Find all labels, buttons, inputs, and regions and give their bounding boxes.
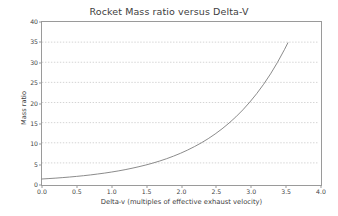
x-tick-label: 2.0 xyxy=(177,189,187,195)
y-tick-label: 5 xyxy=(34,162,38,168)
y-tick-mark xyxy=(39,42,42,43)
y-tick-mark xyxy=(39,22,42,23)
y-tick-label: 40 xyxy=(30,19,38,25)
x-tick-mark xyxy=(216,185,217,188)
y-tick-label: 15 xyxy=(30,121,38,127)
x-tick-label: 4.0 xyxy=(316,189,326,195)
y-tick-label: 25 xyxy=(30,80,38,86)
y-tick-label: 10 xyxy=(30,141,38,147)
x-tick-mark xyxy=(76,185,77,188)
x-tick-mark xyxy=(111,185,112,188)
y-tick-mark xyxy=(39,83,42,84)
y-tick-mark xyxy=(39,144,42,145)
y-tick-label: 30 xyxy=(30,60,38,66)
x-tick-label: 0.0 xyxy=(37,189,47,195)
y-tick-mark xyxy=(39,164,42,165)
x-axis-title: Delta-v (multiples of effective exhaust … xyxy=(41,198,322,206)
y-tick-label: 20 xyxy=(30,100,38,106)
x-tick-mark xyxy=(42,185,43,188)
x-tick-label: 2.5 xyxy=(211,189,221,195)
x-tick-mark xyxy=(181,185,182,188)
y-tick-mark xyxy=(39,62,42,63)
x-tick-mark xyxy=(286,185,287,188)
x-tick-label: 1.5 xyxy=(142,189,152,195)
x-tick-label: 1.0 xyxy=(107,189,117,195)
plot-area: 05101520253035400.00.51.01.52.02.53.03.5… xyxy=(41,21,322,186)
x-tick-mark xyxy=(146,185,147,188)
y-tick-label: 35 xyxy=(30,39,38,45)
chart-title: Rocket Mass ratio versus Delta-V xyxy=(0,6,338,17)
x-tick-label: 0.5 xyxy=(72,189,82,195)
x-tick-mark xyxy=(251,185,252,188)
data-curve xyxy=(42,22,321,185)
y-tick-mark xyxy=(39,103,42,104)
y-axis-title: Mass ratio xyxy=(20,91,28,125)
x-tick-label: 3.0 xyxy=(246,189,256,195)
chart-figure: Rocket Mass ratio versus Delta-V Mass ra… xyxy=(0,0,338,216)
x-tick-label: 3.5 xyxy=(281,189,291,195)
x-tick-mark xyxy=(321,185,322,188)
y-tick-mark xyxy=(39,123,42,124)
